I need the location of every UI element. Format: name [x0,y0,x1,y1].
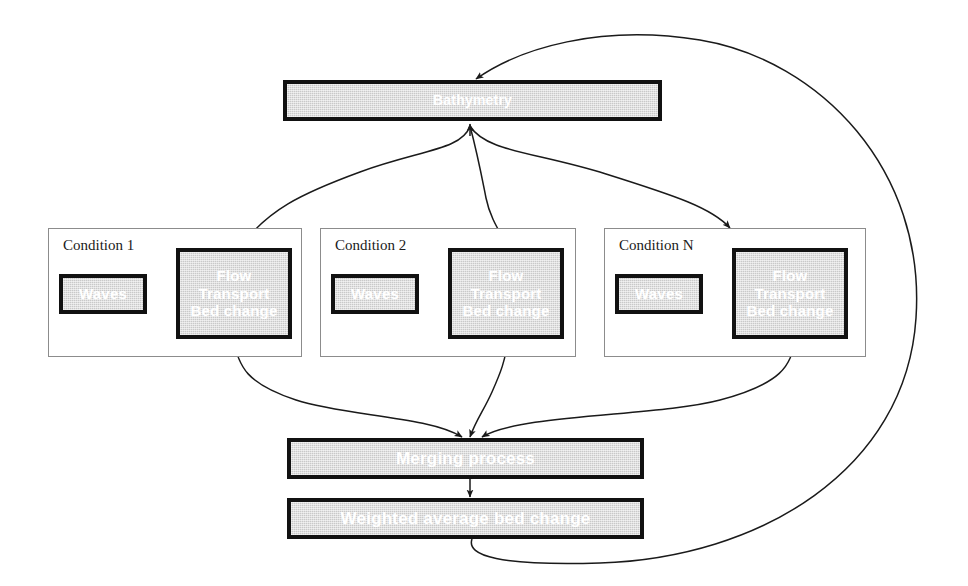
condition-container-n[interactable]: Condition N Waves Flow Transport Bed cha… [604,228,866,357]
condition-2-label: Condition 2 [335,237,406,254]
condition-2-waves-box[interactable]: Waves [331,274,419,314]
condition-2-model-label: Flow Transport Bed change [462,267,549,319]
condition-container-2[interactable]: Condition 2 Waves Flow Transport Bed cha… [320,228,576,357]
condition-1-waves-label: Waves [79,285,127,302]
condition-2-waves-label: Waves [351,285,399,302]
condition-n-model-line-3: Bed change [746,302,833,319]
condition-1-model-line-1: Flow [217,267,252,284]
condition-n-model-line-1: Flow [773,267,808,284]
node-weighted-average-bed-change-label: Weighted average bed change [341,509,591,529]
condition-n-model-box[interactable]: Flow Transport Bed change [732,248,848,339]
condition-2-model-line-1: Flow [489,267,524,284]
node-bathymetry-label: Bathymetry [433,92,512,108]
node-merging-process-label: Merging process [396,449,535,469]
condition-2-model-line-3: Bed change [462,302,549,319]
condition-1-label: Condition 1 [63,237,134,254]
condition-1-model-line-2: Transport [199,285,270,302]
condition-2-model-line-2: Transport [471,285,542,302]
connector-bathymetry-to-condition-n [470,126,730,228]
condition-2-model-box[interactable]: Flow Transport Bed change [448,248,564,339]
condition-1-model-box[interactable]: Flow Transport Bed change [176,248,292,339]
condition-n-model-label: Flow Transport Bed change [746,267,833,319]
flow-diagram-canvas: Bathymetry Condition 1 Waves Flow Transp… [0,0,968,586]
node-bathymetry[interactable]: Bathymetry [283,80,662,121]
condition-1-waves-box[interactable]: Waves [59,274,147,314]
condition-n-label: Condition N [619,237,694,254]
condition-container-1[interactable]: Condition 1 Waves Flow Transport Bed cha… [48,228,302,357]
condition-1-model-label: Flow Transport Bed change [190,267,277,319]
node-weighted-average-bed-change[interactable]: Weighted average bed change [287,498,644,539]
node-merging-process[interactable]: Merging process [287,438,644,479]
condition-n-waves-label: Waves [635,285,683,302]
condition-1-model-line-3: Bed change [190,302,277,319]
condition-n-waves-box[interactable]: Waves [615,274,703,314]
condition-n-model-line-2: Transport [755,285,826,302]
